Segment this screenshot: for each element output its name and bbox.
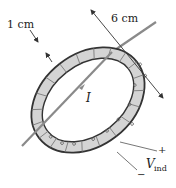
thickness-pointer-inner bbox=[46, 53, 52, 62]
lead-negative bbox=[117, 152, 137, 170]
minus-label: − bbox=[137, 169, 145, 180]
diameter-label: 6 cm bbox=[111, 12, 139, 25]
plus-label: + bbox=[158, 144, 166, 155]
thickness-label: 1 cm bbox=[7, 18, 35, 31]
toroid-diagram: 1 cm 6 cm I + V ind − bbox=[0, 0, 176, 188]
wire-back bbox=[112, 22, 156, 52]
voltage-subscript: ind bbox=[154, 164, 167, 173]
lead-positive bbox=[120, 142, 157, 151]
thickness-pointer-outer bbox=[30, 30, 38, 42]
current-label: I bbox=[85, 91, 91, 105]
